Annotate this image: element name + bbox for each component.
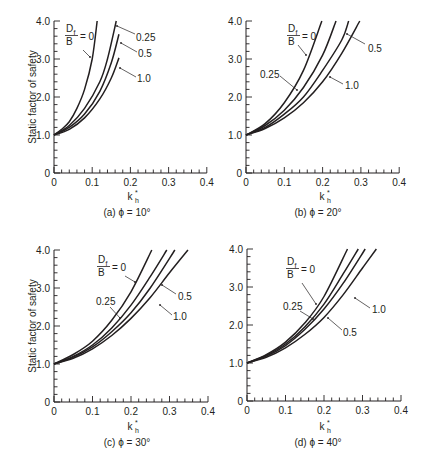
x-axis-label: k	[320, 191, 326, 202]
curve-label: 0.25	[283, 301, 303, 312]
x-axis-label: k	[128, 191, 134, 202]
figure: 00.10.20.30.401.02.03.04.0DfB= 00.250.51…	[0, 0, 424, 474]
leader-arrowhead	[120, 42, 122, 44]
x-tick-label: 0.2	[124, 406, 138, 417]
x-axis-label-subscript: h	[135, 197, 139, 204]
x-tick-label: 0.2	[123, 177, 137, 188]
df-over-b-label: DfB= 0	[286, 256, 316, 280]
leader-line	[302, 283, 316, 304]
y-tick-label: 4.0	[36, 16, 50, 27]
y-tick-label: 2.0	[36, 321, 50, 332]
leader-line	[83, 50, 90, 57]
df-over-b-label: DfB= 0	[65, 23, 95, 47]
y-tick-label: 3.0	[228, 54, 242, 65]
y-axis-label: Static factor of safety	[27, 50, 38, 143]
x-tick-label: 0.4	[392, 177, 406, 188]
x-axis-label-superscript: *	[135, 189, 138, 196]
leader-line	[355, 298, 370, 308]
x-tick-label: 0.1	[279, 405, 293, 416]
df-over-b-label: DfB= 0	[287, 23, 317, 47]
leader-arrowhead	[329, 76, 331, 78]
y-tick-label: 0	[44, 397, 50, 408]
curve-label: 0.25	[96, 296, 116, 307]
leader-line	[162, 285, 176, 294]
x-tick-label: 0.3	[356, 405, 370, 416]
fraction-equals: = 0	[301, 264, 316, 275]
panel-d: 00.10.20.30.401.02.03.04.0DfB= 00.250.51…	[229, 244, 408, 449]
y-tick-label: 2.0	[229, 320, 243, 331]
curve-label: 0.5	[343, 327, 357, 338]
panel-b-caption: (b) ϕ = 20°	[294, 207, 341, 218]
curve-label: 1.0	[173, 311, 187, 322]
fraction-subscript: f	[296, 29, 298, 36]
leader-line	[120, 68, 136, 77]
curve-label: 0.5	[138, 48, 152, 59]
fraction-equals: = 0	[112, 262, 127, 273]
y-tick-label: 1.0	[228, 130, 242, 141]
x-tick-label: 0	[243, 177, 249, 188]
x-tick-label: 0	[51, 177, 57, 188]
fraction-subscript: f	[295, 262, 297, 269]
y-tick-label: 1.0	[229, 358, 243, 369]
x-tick-label: 0.2	[316, 177, 330, 188]
x-tick-label: 0.2	[317, 405, 331, 416]
fraction-denominator: B	[98, 267, 105, 278]
leader-line	[160, 305, 172, 315]
x-axis-label: k	[128, 421, 134, 432]
leader-arrowhead	[315, 303, 317, 305]
fraction-numerator: D	[287, 256, 294, 267]
fraction-numerator: D	[288, 23, 295, 34]
fraction-numerator: D	[98, 254, 105, 265]
fraction-subscript: f	[106, 260, 108, 267]
x-tick-label: 0.4	[394, 405, 408, 416]
x-tick-label: 0	[244, 405, 250, 416]
curve-label: 1.0	[137, 73, 151, 84]
fraction-subscript: f	[74, 29, 76, 36]
leader-arrowhead	[116, 25, 118, 27]
leader-line	[280, 76, 297, 90]
curve-label: 1.0	[345, 80, 359, 91]
y-tick-label: 3.0	[36, 54, 50, 65]
fraction-denominator: B	[66, 36, 73, 47]
curve-label: 0.25	[260, 69, 280, 80]
panel-b: 00.10.20.30.401.02.03.04.0DfB= 00.250.51…	[228, 16, 406, 219]
panel-c: 00.10.20.30.401.02.03.04.0DfB= 00.250.51…	[27, 245, 215, 449]
x-tick-label: 0.3	[354, 177, 368, 188]
x-tick-label: 0.1	[86, 406, 100, 417]
y-tick-label: 0	[44, 168, 50, 179]
leader-line	[330, 77, 343, 84]
leader-arrowhead	[327, 317, 329, 319]
leader-arrowhead	[346, 33, 348, 35]
y-tick-label: 3.0	[36, 283, 50, 294]
y-tick-label: 0	[236, 168, 242, 179]
leader-arrowhead	[312, 318, 314, 320]
panel-a: 00.10.20.30.401.02.03.04.0DfB= 00.250.51…	[27, 16, 214, 219]
y-tick-label: 1.0	[36, 359, 50, 370]
y-tick-label: 3.0	[229, 282, 243, 293]
y-tick-label: 4.0	[36, 245, 50, 256]
leader-arrowhead	[161, 284, 163, 286]
y-tick-label: 1.0	[36, 130, 50, 141]
curve-label: 1.0	[372, 304, 386, 315]
fraction-numerator: D	[66, 23, 73, 34]
curve-label: 0.5	[178, 291, 192, 302]
panel-d-caption: (d) ϕ = 40°	[294, 437, 341, 448]
leader-arrowhead	[296, 89, 298, 91]
y-tick-label: 4.0	[228, 16, 242, 27]
leader-line	[298, 45, 306, 55]
df-over-b-label: DfB= 0	[97, 254, 127, 278]
curve-label: 0.25	[136, 32, 156, 43]
leader-arrowhead	[354, 297, 356, 299]
leader-arrowhead	[134, 281, 136, 283]
panel-c-caption: (c) ϕ = 30°	[104, 437, 151, 448]
leader-line	[117, 26, 135, 34]
x-axis-label-subscript: h	[327, 427, 331, 434]
fraction-equals: = 0	[302, 31, 317, 42]
x-tick-label: 0.3	[162, 177, 176, 188]
leader-arrowhead	[119, 317, 121, 319]
x-tick-label: 0.4	[201, 406, 215, 417]
curve-label: 0.5	[368, 43, 382, 54]
x-axis-label-superscript: *	[135, 419, 138, 426]
leader-arrowhead	[305, 54, 307, 56]
y-axis-label: Static factor of safety	[27, 279, 38, 372]
